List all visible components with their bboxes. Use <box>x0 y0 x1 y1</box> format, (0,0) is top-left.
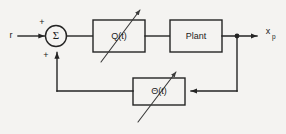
label-sign-reference: + <box>39 17 44 27</box>
label-block-feedback-gain: Θ(t) <box>151 86 167 96</box>
label-sign-feedback: + <box>43 50 48 60</box>
block-diagram-svg: r Σ + + Q(t) Plant Θ(t) x p <box>0 0 286 134</box>
block-diagram-canvas: r Σ + + Q(t) Plant Θ(t) x p <box>0 0 286 134</box>
label-output-symbol: x <box>266 26 271 36</box>
label-block-controller: Q(t) <box>111 31 127 41</box>
label-output-subscript: p <box>272 33 276 41</box>
label-reference-input: r <box>10 30 13 40</box>
label-block-plant: Plant <box>186 31 207 41</box>
label-summing-symbol: Σ <box>53 29 59 41</box>
